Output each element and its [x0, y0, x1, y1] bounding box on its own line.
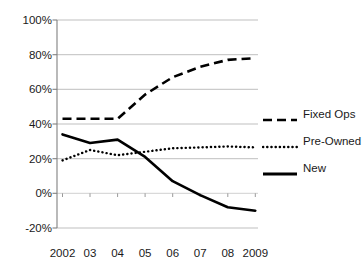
- x-axis-label-07: 07: [185, 247, 215, 260]
- series-line-new: [63, 134, 256, 210]
- legend-label-pre-owned: Pre-Owned: [303, 135, 361, 148]
- legend-key-dotted-icon: [262, 141, 298, 153]
- y-axis-label-100: 100%: [6, 14, 52, 26]
- legend-label-fixed-ops: Fixed Ops: [303, 108, 355, 121]
- legend-item-pre-owned[interactable]: Pre-Owned: [262, 135, 362, 162]
- y-axis-label-minus20: -20%: [6, 222, 52, 234]
- series-lines: [63, 58, 256, 211]
- y-axis-label-60: 60%: [6, 83, 52, 95]
- y-axis-label-0: 0%: [6, 187, 52, 199]
- legend-key-dashed-icon: [262, 114, 298, 126]
- x-axis-label-2009: 2009: [237, 247, 273, 260]
- x-axis-label-04: 04: [103, 247, 133, 260]
- legend-item-new[interactable]: New: [262, 162, 362, 189]
- x-axis-label-05: 05: [130, 247, 160, 260]
- y-axis-label-40: 40%: [6, 118, 52, 130]
- chart-legend: Fixed Ops Pre-Owned New: [262, 108, 362, 189]
- x-axis-label-06: 06: [158, 247, 188, 260]
- y-axis-label-80: 80%: [6, 49, 52, 61]
- legend-key-solid-icon: [262, 168, 298, 180]
- y-axis-labels: 100% 80% 60% 40% 20% 0% -20%: [0, 0, 52, 274]
- series-line-fixed-ops: [63, 58, 256, 119]
- x-axis-label-03: 03: [75, 247, 105, 260]
- x-axis-ticks: [63, 193, 256, 197]
- legend-label-new: New: [303, 162, 326, 175]
- line-chart: 100% 80% 60% 40% 20% 0% -20% 2002 03 04 …: [0, 0, 364, 274]
- y-axis-label-20: 20%: [6, 153, 52, 165]
- legend-item-fixed-ops[interactable]: Fixed Ops: [262, 108, 362, 135]
